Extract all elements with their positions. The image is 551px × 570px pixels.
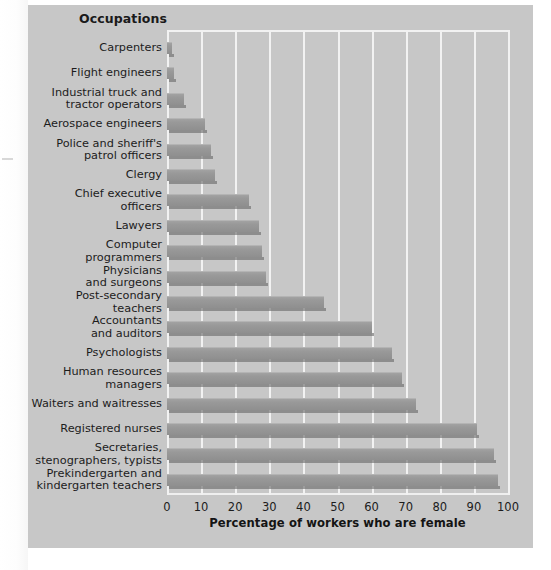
bar-shadow	[169, 435, 479, 438]
bar[interactable]	[167, 271, 266, 283]
category-label: Psychologists	[28, 347, 162, 360]
category-label: Secretaries, stenographers, typists	[28, 442, 162, 467]
bar-shadow	[169, 156, 213, 159]
chart-panel: Occupations CarpentersFlight engineersIn…	[28, 5, 533, 548]
category-label: Computer programmers	[28, 239, 162, 264]
bar-row: Accountants and auditors	[167, 315, 508, 340]
bar-shadow	[169, 333, 374, 336]
bar[interactable]	[167, 194, 249, 206]
category-label: Prekindergarten and kindergarten teacher…	[28, 468, 162, 493]
bar-row: Carpenters	[167, 36, 508, 61]
x-tick-label-10: 10	[186, 500, 216, 514]
bar-row: Waiters and waitresses	[167, 392, 508, 417]
bar-shadow	[169, 257, 264, 260]
bar-row: Computer programmers	[167, 239, 508, 264]
bar-shadow	[169, 359, 394, 362]
category-label: Post-secondary teachers	[28, 290, 162, 315]
occupations-column-header: Occupations	[28, 11, 167, 26]
category-label: Registered nurses	[28, 423, 162, 436]
bar-row: Chief executive officers	[167, 188, 508, 213]
bar[interactable]	[167, 220, 259, 232]
bar-row: Post-secondary teachers	[167, 290, 508, 315]
bar[interactable]	[167, 347, 392, 359]
bar-shadow	[169, 384, 404, 387]
bar[interactable]	[167, 372, 402, 384]
bar[interactable]	[167, 93, 184, 105]
bar-row: Psychologists	[167, 341, 508, 366]
bar-row: Aerospace engineers	[167, 112, 508, 137]
category-label: Chief executive officers	[28, 188, 162, 213]
page-margin-tick	[2, 158, 13, 160]
category-label: Physicians and surgeons	[28, 265, 162, 290]
category-label: Waiters and waitresses	[28, 398, 162, 411]
bar-shadow	[169, 486, 500, 489]
bar[interactable]	[167, 321, 372, 333]
bar-row: Police and sheriff's patrol officers	[167, 138, 508, 163]
category-label: Human resources managers	[28, 366, 162, 391]
page-edge-artifact	[0, 0, 28, 570]
category-label: Lawyers	[28, 220, 162, 233]
bar[interactable]	[167, 169, 215, 181]
x-tick-label-0: 0	[152, 500, 182, 514]
bar[interactable]	[167, 423, 477, 435]
x-tick-label-100: 100	[493, 500, 523, 514]
x-tick-label-70: 70	[391, 500, 421, 514]
x-axis-title: Percentage of workers who are female	[167, 516, 508, 530]
category-label: Carpenters	[28, 42, 162, 55]
bar[interactable]	[167, 144, 211, 156]
bar[interactable]	[167, 118, 205, 130]
bar[interactable]	[167, 448, 494, 460]
bar[interactable]	[167, 245, 262, 257]
bar[interactable]	[167, 296, 324, 308]
bar-row: Physicians and surgeons	[167, 265, 508, 290]
x-tick-label-20: 20	[220, 500, 250, 514]
bar-shadow	[169, 54, 174, 57]
bar[interactable]	[167, 67, 174, 79]
bar-shadow	[169, 79, 176, 82]
category-label: Flight engineers	[28, 67, 162, 80]
x-tick-label-50: 50	[323, 500, 353, 514]
bar-shadow	[169, 410, 418, 413]
bar-row: Lawyers	[167, 214, 508, 239]
bar-shadow	[169, 460, 496, 463]
bar-shadow	[169, 308, 326, 311]
category-label: Accountants and auditors	[28, 315, 162, 340]
plot-area: CarpentersFlight engineersIndustrial tru…	[167, 30, 508, 495]
x-tick-label-90: 90	[459, 500, 489, 514]
bar-shadow	[169, 181, 217, 184]
chart-panel-inner: Occupations CarpentersFlight engineersIn…	[28, 5, 533, 548]
bar[interactable]	[167, 42, 172, 54]
bar-row: Industrial truck and tractor operators	[167, 87, 508, 112]
bar-shadow	[169, 206, 251, 209]
category-label: Industrial truck and tractor operators	[28, 87, 162, 112]
x-tick-label-40: 40	[288, 500, 318, 514]
bar-shadow	[169, 130, 207, 133]
bar-shadow	[169, 105, 186, 108]
x-tick-label-80: 80	[425, 500, 455, 514]
category-label: Police and sheriff's patrol officers	[28, 138, 162, 163]
bar-row: Secretaries, stenographers, typists	[167, 442, 508, 467]
bar-row: Human resources managers	[167, 366, 508, 391]
bar-shadow	[169, 283, 268, 286]
bar-shadow	[169, 232, 261, 235]
category-label: Clergy	[28, 169, 162, 182]
category-label: Aerospace engineers	[28, 118, 162, 131]
bar[interactable]	[167, 474, 498, 486]
gridline-100	[508, 30, 510, 495]
x-tick-label-30: 30	[254, 500, 284, 514]
bar-row: Prekindergarten and kindergarten teacher…	[167, 468, 508, 493]
x-tick-label-60: 60	[357, 500, 387, 514]
bar-row: Clergy	[167, 163, 508, 188]
bar-row: Registered nurses	[167, 417, 508, 442]
bar-row: Flight engineers	[167, 61, 508, 86]
bar[interactable]	[167, 398, 416, 410]
